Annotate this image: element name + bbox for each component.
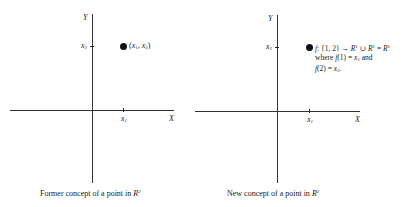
x1-tick-label: x1 <box>307 116 313 124</box>
x-axis-label: X <box>355 116 360 124</box>
new-concept-caption: New concept of a point in R2 <box>227 189 319 198</box>
function-annotation: f: {1, 2} → R1 ∪ R1 = R1 where f(1) = x1… <box>315 42 390 75</box>
x2-tick-label: x2 <box>266 43 272 51</box>
x1-tick <box>309 109 310 113</box>
new-concept-figure: Y X x1 x2 f: {1, 2} → R1 ∪ R1 = R1 where… <box>0 0 415 207</box>
point-marker <box>306 44 313 51</box>
y-axis-label: Y <box>268 15 272 23</box>
annotation-line-1: f: {1, 2} → R1 ∪ R1 = R1 <box>315 42 390 53</box>
x2-tick <box>275 47 279 48</box>
annotation-line-3: f(2) = x2. <box>315 64 390 75</box>
annotation-line-2: where f(1) = x1 and <box>315 53 390 64</box>
y-axis <box>277 15 278 183</box>
